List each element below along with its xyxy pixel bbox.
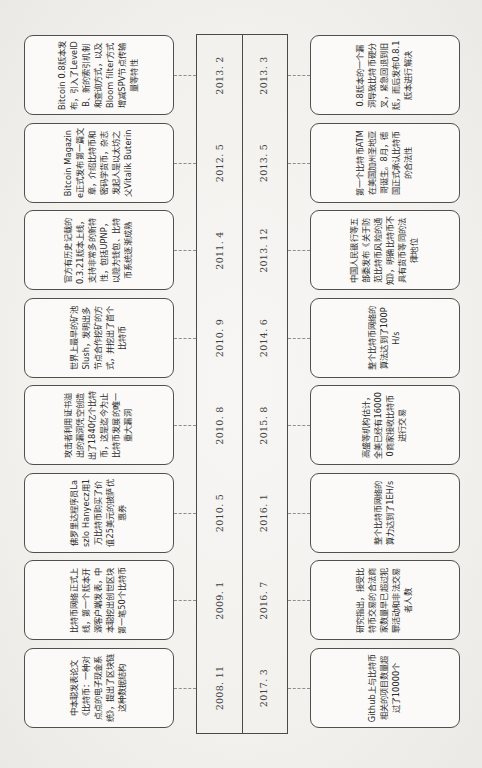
event-card-top[interactable]: Bitcoin Magazine正式发布第一篇文章，介绍比特币和密码学货币，杂志… — [24, 123, 174, 203]
event-date-bottom: 2016. 1 — [258, 474, 269, 552]
event-card-bottom[interactable]: 0.8版本的一个漏洞导致比特币硬分叉，紧急回退到旧版，而后发布0.8.1版本进行… — [310, 36, 460, 116]
event-card-top[interactable]: 比特币网络正式上线，第一个版本开源客户端发表，中本聪挖出创世区块第一笔50个比特… — [24, 561, 174, 641]
timeline-event-column: Bitcoin 0.8版本发布，引入了LevelDB、新的索引机制和查询方式，以… — [0, 37, 482, 115]
event-leader-line-bottom — [288, 338, 310, 339]
event-date-bottom: 2013. 3 — [258, 37, 269, 115]
event-leader-line-top — [174, 513, 196, 514]
event-card-text: 攻击者利用证书溢出的漏洞凭空创造出了1840亿个比特币，这是迄今为止比特币发展的… — [63, 391, 134, 461]
event-card-top[interactable]: 中本聪发表论文《比特币：一种对点点的电子现金系统》，提出了区块链这种数据结构 — [24, 648, 174, 728]
event-leader-line-top — [174, 76, 196, 77]
event-leader-line-bottom — [288, 163, 310, 164]
event-card-text: 佛罗里达程序员Laszlo Hanyecz用1万比特币购买了价值25美元的披萨优… — [69, 478, 128, 548]
event-date-bottom: 2016. 7 — [258, 562, 269, 640]
event-card-top[interactable]: 世界上最早的矿池Slush，发明出多节点合作挖矿的方式，并挖出了首个比特币 — [24, 298, 174, 378]
event-card-text: Bitcoin 0.8版本发布，引入了LevelDB、新的索引机制和查询方式，以… — [57, 41, 140, 111]
event-card-text: 中本聪发表论文《比特币：一种对点点的电子现金系统》，提出了区块链这种数据结构 — [69, 653, 128, 723]
event-card-bottom[interactable]: 整个比特币网络的算力达到了1EH/s — [310, 473, 460, 553]
event-leader-line-bottom — [288, 426, 310, 427]
timeline-event-column: 官方有历史记载的0.3.21版本上线，支持非常多的新特性，包括UPNP，以隐为钱… — [0, 212, 482, 290]
event-leader-line-bottom — [288, 76, 310, 77]
event-card-text: 高盛等机构估计，全美已经有160000商家接收比特币进行交易 — [361, 391, 409, 461]
event-card-text: 整个比特币网络的算法达到了100PH/s — [367, 303, 403, 373]
event-card-text: 比特币网络正式上线，第一个版本开源客户端发表，中本聪挖出创世区块第一笔50个比特… — [69, 566, 128, 636]
event-date-top: 2011. 4 — [214, 212, 225, 290]
timeline-event-column: 比特币网络正式上线，第一个版本开源客户端发表，中本聪挖出创世区块第一笔50个比特… — [0, 562, 482, 640]
event-card-text: 第一个比特币ATM在美国加州圣地亚哥诞生。8月，德国正式承认比特币的合法性 — [355, 128, 414, 198]
event-card-top[interactable]: Bitcoin 0.8版本发布，引入了LevelDB、新的索引机制和查询方式，以… — [24, 36, 174, 116]
event-card-bottom[interactable]: 研究指出，接受比特币交易的合法商家数量早已超过犯罪活动和非法交易者人数 — [310, 561, 460, 641]
timeline-event-column: 攻击者利用证书溢出的漏洞凭空创造出了1840亿个比特币，这是迄今为止比特币发展的… — [0, 387, 482, 465]
event-date-bottom: 2017. 3 — [258, 649, 269, 727]
figure-caption-wrap: 图 3-1 区块链 1.0 发展历程 — [154, 44, 176, 526]
event-card-bottom[interactable]: 第一个比特币ATM在美国加州圣地亚哥诞生。8月，德国正式承认比特币的合法性 — [310, 123, 460, 203]
event-leader-line-bottom — [288, 513, 310, 514]
event-leader-line-bottom — [288, 251, 310, 252]
event-date-top: 2010. 9 — [214, 299, 225, 377]
event-card-text: 0.8版本的一个漏洞导致比特币硬分叉，紧急回退到旧版，而后发布0.8.1版本进行… — [355, 41, 414, 111]
event-card-top[interactable]: 官方有历史记载的0.3.21版本上线，支持非常多的新特性，包括UPNP，以隐为钱… — [24, 211, 174, 291]
timeline-event-column: 世界上最早的矿池Slush，发明出多节点合作挖矿的方式，并挖出了首个比特币201… — [0, 299, 482, 377]
event-date-bottom: 2013. 12 — [258, 212, 269, 290]
timeline-diagram: 中本聪发表论文《比特币：一种对点点的电子现金系统》，提出了区块链这种数据结构20… — [0, 0, 482, 768]
event-card-text: 整个比特币网络的算力达到了1EH/s — [373, 478, 397, 548]
event-card-bottom[interactable]: Github上与比特币相关的项目数量超过了10000个 — [310, 648, 460, 728]
event-leader-line-top — [174, 688, 196, 689]
event-date-bottom: 2015. 8 — [258, 387, 269, 465]
event-date-top: 2010. 8 — [214, 387, 225, 465]
event-card-text: 中国人民银行等五部委发布《关于防范比特币风险的通知》，明确比特币不具有货币等同的… — [349, 216, 420, 286]
event-date-bottom: 2014. 6 — [258, 299, 269, 377]
event-date-top: 2010. 5 — [214, 474, 225, 552]
event-card-bottom[interactable]: 整个比特币网络的算法达到了100PH/s — [310, 298, 460, 378]
event-leader-line-top — [174, 601, 196, 602]
event-leader-line-bottom — [288, 688, 310, 689]
event-date-top: 2009. 1 — [214, 562, 225, 640]
event-card-text: 研究指出，接受比特币交易的合法商家数量早已超过犯罪活动和非法交易者人数 — [355, 566, 414, 636]
event-card-bottom[interactable]: 中国人民银行等五部委发布《关于防范比特币风险的通知》，明确比特币不具有货币等同的… — [310, 211, 460, 291]
timeline-event-column: 中本聪发表论文《比特币：一种对点点的电子现金系统》，提出了区块链这种数据结构20… — [0, 649, 482, 727]
event-card-text: Github上与比特币相关的项目数量超过了10000个 — [367, 653, 403, 723]
timeline-event-column: 佛罗里达程序员Laszlo Hanyecz用1万比特币购买了价值25美元的披萨优… — [0, 474, 482, 552]
event-leader-line-top — [174, 251, 196, 252]
timeline-event-column: Bitcoin Magazine正式发布第一篇文章，介绍比特币和密码学货币，杂志… — [0, 124, 482, 202]
event-card-text: Bitcoin Magazine正式发布第一篇文章，介绍比特币和密码学货币，杂志… — [63, 128, 134, 198]
event-leader-line-top — [174, 163, 196, 164]
figure-page: 中本聪发表论文《比特币：一种对点点的电子现金系统》，提出了区块链这种数据结构20… — [0, 0, 482, 768]
event-leader-line-bottom — [288, 601, 310, 602]
event-card-text: 世界上最早的矿池Slush，发明出多节点合作挖矿的方式，并挖出了首个比特币 — [69, 303, 128, 373]
event-leader-line-top — [174, 338, 196, 339]
event-date-top: 2012. 5 — [214, 124, 225, 202]
event-date-top: 2008. 11 — [214, 649, 225, 727]
event-card-text: 官方有历史记载的0.3.21版本上线，支持非常多的新特性，包括UPNP，以隐为钱… — [63, 216, 134, 286]
event-card-top[interactable]: 攻击者利用证书溢出的漏洞凭空创造出了1840亿个比特币，这是迄今为止比特币发展的… — [24, 386, 174, 466]
event-date-top: 2013. 2 — [214, 37, 225, 115]
event-leader-line-top — [174, 426, 196, 427]
event-card-top[interactable]: 佛罗里达程序员Laszlo Hanyecz用1万比特币购买了价值25美元的披萨优… — [24, 473, 174, 553]
event-date-bottom: 2013. 5 — [258, 124, 269, 202]
event-card-bottom[interactable]: 高盛等机构估计，全美已经有160000商家接收比特币进行交易 — [310, 386, 460, 466]
